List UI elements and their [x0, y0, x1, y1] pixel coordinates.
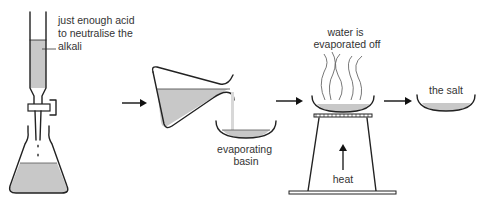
burette-tap [28, 104, 50, 111]
pouring-stream [231, 92, 234, 132]
gauze [314, 114, 372, 117]
arrow-right-icon [276, 97, 303, 105]
heat-label: heat [333, 173, 354, 185]
arrow-right-icon [122, 99, 147, 107]
heat-arrow-icon [339, 144, 347, 170]
burette-acid [30, 40, 46, 88]
heated-basin [312, 96, 374, 112]
salt-label: the salt [429, 84, 463, 96]
acid-label: just enough acid to neutralise the alkal… [57, 14, 137, 52]
basin-label: evaporating basin [217, 143, 275, 167]
salt-basin [417, 95, 475, 111]
evaporation-label: water is evaporated off [314, 26, 381, 50]
steam-lines [321, 52, 362, 100]
conical-flask [10, 126, 68, 193]
drop-icon [37, 153, 39, 156]
diagram-canvas: just enough acid to neutralise the alkal… [0, 0, 479, 200]
burette [28, 12, 56, 140]
bench-base [289, 191, 396, 194]
pouring-beaker [153, 67, 235, 132]
arrow-right-icon [384, 97, 412, 105]
evaporating-basin [216, 121, 276, 138]
drop-icon [37, 144, 39, 147]
